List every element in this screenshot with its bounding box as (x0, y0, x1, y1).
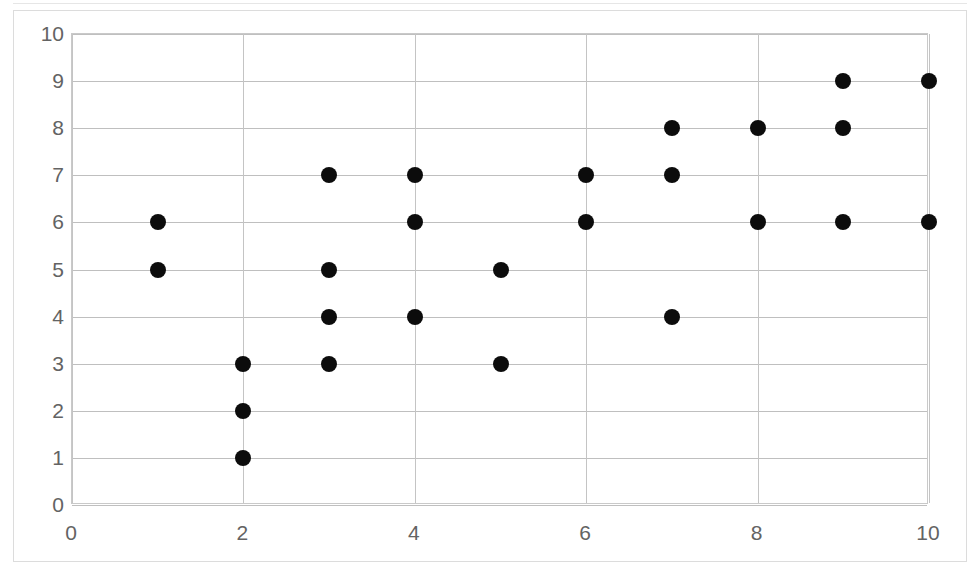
data-point (493, 356, 509, 372)
y-axis: 012345678910 (14, 33, 64, 504)
x-tick-label: 8 (717, 522, 797, 543)
gridline-vertical (243, 34, 244, 503)
data-point (664, 309, 680, 325)
data-point (921, 214, 937, 230)
data-point (235, 450, 251, 466)
data-point (921, 73, 937, 89)
x-tick-label: 10 (888, 522, 968, 543)
y-tick-label: 2 (18, 399, 64, 420)
data-point (835, 73, 851, 89)
y-tick-label: 9 (18, 70, 64, 91)
data-point (835, 120, 851, 136)
gridline-horizontal (72, 317, 927, 318)
scatter-chart-screenshot: 012345678910 0246810 (0, 0, 980, 574)
top-rule-divider (13, 3, 967, 4)
x-tick-label: 6 (545, 522, 625, 543)
gridline-vertical (929, 34, 930, 503)
x-tick-label: 0 (31, 522, 111, 543)
y-tick-label: 4 (18, 305, 64, 326)
gridline-horizontal (72, 222, 927, 223)
data-point (835, 214, 851, 230)
x-axis: 0246810 (71, 522, 928, 552)
data-point (321, 167, 337, 183)
y-tick-label: 5 (18, 258, 64, 279)
gridline-horizontal (72, 458, 927, 459)
data-point (493, 262, 509, 278)
y-tick-label: 7 (18, 164, 64, 185)
x-tick-label: 4 (374, 522, 454, 543)
data-point (407, 167, 423, 183)
data-point (407, 214, 423, 230)
data-point (150, 262, 166, 278)
gridline-horizontal (72, 128, 927, 129)
data-point (578, 214, 594, 230)
y-tick-label: 3 (18, 352, 64, 373)
gridline-vertical (586, 34, 587, 503)
gridline-vertical (72, 34, 73, 503)
data-point (750, 214, 766, 230)
data-point (578, 167, 594, 183)
data-point (235, 356, 251, 372)
gridline-horizontal (72, 175, 927, 176)
y-tick-label: 1 (18, 446, 64, 467)
data-point (407, 309, 423, 325)
data-point (321, 262, 337, 278)
y-tick-label: 8 (18, 117, 64, 138)
gridline-vertical (758, 34, 759, 503)
data-point (235, 403, 251, 419)
y-tick-label: 10 (18, 23, 64, 44)
x-tick-label: 2 (202, 522, 282, 543)
data-point (150, 214, 166, 230)
y-tick-label: 6 (18, 211, 64, 232)
gridline-vertical (415, 34, 416, 503)
gridline-horizontal (72, 34, 927, 35)
gridline-horizontal (72, 505, 927, 506)
data-point (664, 120, 680, 136)
gridline-horizontal (72, 81, 927, 82)
plot-area (71, 33, 928, 504)
data-point (750, 120, 766, 136)
gridline-horizontal (72, 411, 927, 412)
data-point (321, 356, 337, 372)
data-point (664, 167, 680, 183)
y-tick-label: 0 (18, 494, 64, 515)
data-point (321, 309, 337, 325)
